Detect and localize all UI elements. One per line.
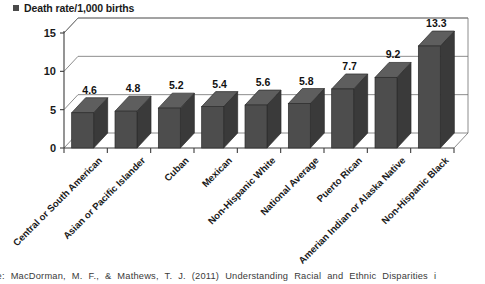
bar-value-label: 9.2 [386, 48, 401, 60]
bar [332, 74, 368, 148]
bar [245, 90, 281, 148]
x-axis-category-labels: Central or South AmericanAsian or Pacifi… [11, 154, 452, 266]
bar [115, 96, 151, 148]
bar-value-label: 5.2 [169, 79, 184, 91]
y-tick-label: 5 [50, 104, 56, 116]
bar [418, 31, 454, 148]
y-tick-label: 15 [44, 27, 56, 39]
bar-value-label: 7.7 [342, 60, 357, 72]
x-category-label: Cuban [162, 155, 191, 184]
y-tick-label: 0 [50, 142, 56, 154]
x-category-label: Mexican [200, 155, 235, 190]
y-axis-tick-labels: 051015 [44, 27, 56, 154]
bar-value-label: 5.8 [299, 75, 314, 87]
bar [202, 92, 238, 148]
bar [72, 98, 108, 148]
x-category-label: Central or South American [11, 155, 105, 249]
bar [158, 93, 194, 148]
bar [288, 89, 324, 148]
x-category-label: Asian or Pacific Islander [61, 154, 148, 241]
bar-value-label: 5.6 [256, 76, 271, 88]
bar-value-label: 4.6 [82, 84, 97, 96]
bar [375, 62, 411, 148]
bar-value-label: 5.4 [212, 78, 227, 90]
bar-value-label: 4.8 [126, 82, 141, 94]
bar-chart: 051015 4.64.85.25.45.65.87.79.213.3 Cent… [0, 0, 485, 284]
bar-value-label: 13.3 [426, 17, 447, 29]
y-tick-label: 10 [44, 65, 56, 77]
source-caption: urce: MacDorman, M. F., & Mathews, T. J.… [0, 271, 485, 281]
